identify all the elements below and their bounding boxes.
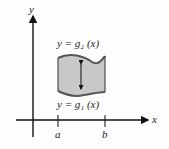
upper-curve-label: y = g₂ (x)	[57, 38, 99, 49]
tick-b-label: b	[102, 129, 108, 140]
region-between-curves-diagram: y x y = g₂ (x) y = g₁ (x) a b	[0, 0, 169, 149]
tick-a-label: a	[55, 129, 61, 140]
diagram-graphic	[0, 0, 169, 149]
x-axis-label: x	[152, 114, 157, 125]
lower-curve-label: y = g₁ (x)	[57, 99, 99, 110]
y-axis-label: y	[29, 4, 34, 15]
